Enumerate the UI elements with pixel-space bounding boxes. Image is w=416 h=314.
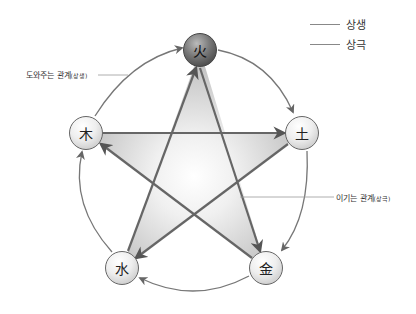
legend-item-generating: 상생 [310,14,366,34]
legend-line-icon [310,44,340,45]
legend-item-overcoming: 상극 [310,34,366,54]
legend-label: 상극 [346,36,366,52]
node-earth: 土 [285,116,319,150]
overcoming-annotation-sub: (상극) [374,195,391,202]
overcoming-annotation-text: 이기는 관계 [336,194,374,203]
generating-annotation-text: 도와주는 관계 [26,71,71,80]
node-wood: 木 [69,116,103,150]
legend: 상생 상극 [310,14,366,54]
generating-annotation-sub: (상생) [71,72,88,79]
node-metal: 金 [249,251,283,285]
overcoming-annotation: 이기는 관계(상극) [336,192,390,203]
node-water: 水 [105,251,139,285]
node-fire: 火 [183,33,217,67]
legend-line-icon [310,24,340,25]
generating-annotation: 도와주는 관계(상생) [26,69,87,80]
legend-label: 상생 [346,16,366,32]
